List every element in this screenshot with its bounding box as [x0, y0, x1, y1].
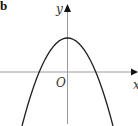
part-label: b: [0, 0, 7, 12]
origin-label: O: [56, 77, 66, 89]
x-axis-arrow-icon: [131, 69, 138, 76]
x-axis-label: x: [133, 79, 138, 91]
graph-canvas: [0, 0, 138, 126]
y-axis-label: y: [56, 3, 63, 15]
y-axis-arrow-icon: [64, 4, 71, 12]
